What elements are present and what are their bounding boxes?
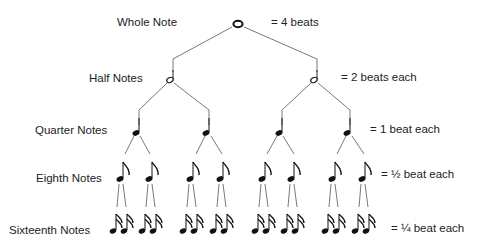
sixteenth-note-icon (321, 214, 334, 235)
whole-note-icon (233, 21, 242, 27)
quarter-note-icon (132, 118, 141, 137)
quarter-note-icon (343, 118, 352, 137)
sixteenth-note-icon (209, 214, 222, 235)
sixteenth-note-icon (280, 214, 293, 235)
eighth-note-icon (328, 162, 341, 183)
sixteenth-note-icon (262, 214, 275, 235)
sixteenth-note-icon (149, 214, 162, 235)
sixteenth-note-icon (351, 214, 364, 235)
eighth-note-icon (145, 162, 158, 183)
sixteenth-note-icon (138, 214, 151, 235)
sixteenth-note-icon (220, 214, 233, 235)
sixteenth-note-icon (190, 214, 203, 235)
sixteenth-note-icon (362, 214, 375, 235)
eighth-note-icon (287, 162, 300, 183)
quarter-note-icon (275, 118, 284, 137)
sixteenth-note-icon (332, 214, 345, 235)
note-tree-graphic (0, 0, 488, 250)
eighth-note-icon (216, 162, 229, 183)
eighth-note-icon (116, 162, 129, 183)
quarter-note-icon (202, 118, 211, 137)
eighth-note-icon (186, 162, 199, 183)
half-note-icon (310, 70, 318, 84)
sixteenth-note-icon (251, 214, 264, 235)
eighth-note-icon (258, 162, 271, 183)
sixteenth-note-icon (120, 214, 133, 235)
sixteenth-note-icon (291, 214, 304, 235)
eighth-note-icon (358, 162, 371, 183)
half-note-icon (166, 70, 174, 84)
sixteenth-note-icon (109, 214, 122, 235)
sixteenth-note-icon (179, 214, 192, 235)
